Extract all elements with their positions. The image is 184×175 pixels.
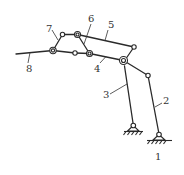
joint-d [73, 51, 77, 55]
leader-8 [28, 53, 30, 64]
leader-2 [155, 103, 162, 107]
link-2 [148, 76, 159, 135]
link-4 [90, 54, 124, 61]
joint-a [50, 47, 56, 53]
leader-6 [84, 24, 91, 44]
ground-pivot-1 [147, 132, 172, 144]
leader-3 [110, 84, 127, 94]
label-2: 2 [163, 95, 169, 106]
link-5 [78, 35, 135, 48]
label-8: 8 [26, 63, 32, 74]
joint-f [132, 45, 136, 49]
joint-e [87, 51, 93, 57]
joint-g [120, 57, 128, 65]
label-5: 5 [108, 19, 114, 30]
label-4: 4 [94, 63, 100, 74]
joint-b [60, 32, 64, 36]
label-7: 7 [46, 23, 52, 34]
leader-5 [105, 30, 108, 41]
label-1: 1 [155, 151, 161, 162]
label-3: 3 [103, 89, 109, 100]
leader-4 [100, 57, 106, 64]
link-3 [125, 66, 134, 125]
mechanism-drawing: 1 2 3 4 5 6 7 8 [0, 0, 184, 175]
ground-pivot-3 [124, 123, 144, 135]
joint-c [75, 32, 81, 38]
linkage-diagram: 1 2 3 4 5 6 7 8 [0, 0, 184, 175]
label-6: 6 [88, 13, 94, 24]
link-8 [16, 51, 53, 55]
joint-h [146, 73, 150, 77]
leader-7 [52, 30, 58, 40]
